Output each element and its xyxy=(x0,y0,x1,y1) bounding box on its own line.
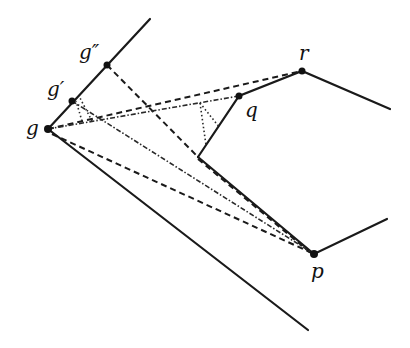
label-g-double-prime: g″ xyxy=(79,40,100,64)
vertex-g xyxy=(44,125,52,133)
geometry-diagram: g g′ g″ q r p xyxy=(0,0,410,348)
dotted-drop-3 xyxy=(76,101,82,121)
vertex-g-double-prime xyxy=(104,62,111,69)
label-q: q xyxy=(245,98,258,122)
dashed-g-to-p xyxy=(52,134,314,254)
label-g: g xyxy=(26,116,39,140)
label-r: r xyxy=(299,41,310,65)
vertex-r xyxy=(299,68,306,75)
vertex-g-prime xyxy=(69,98,76,105)
dashed-g-to-r xyxy=(48,71,302,129)
label-p: p xyxy=(311,259,324,283)
vertex-q xyxy=(236,93,243,100)
dotted-drop-4 xyxy=(80,98,92,121)
dashed-reflex-to-p xyxy=(198,159,312,254)
lower-ray-edge xyxy=(48,129,308,330)
polygon-chain-p xyxy=(198,157,387,254)
dashdot-gp-to-p xyxy=(72,101,314,254)
vertex-p xyxy=(310,250,318,258)
upper-ray-edge xyxy=(48,19,150,129)
label-g-prime: g′ xyxy=(47,77,65,101)
polygon-chain-q-r xyxy=(198,71,390,157)
